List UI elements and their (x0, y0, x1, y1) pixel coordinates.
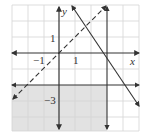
y-tick-1: 1 (50, 32, 56, 44)
y-tick-neg3: −3 (44, 94, 56, 106)
x-tick-neg1: −1 (33, 54, 45, 66)
y-axis-label: y (61, 5, 67, 17)
graph: y x 1 −1 1 −3 (0, 0, 146, 136)
x-tick-1: 1 (73, 54, 79, 66)
x-axis-label: x (129, 55, 135, 67)
